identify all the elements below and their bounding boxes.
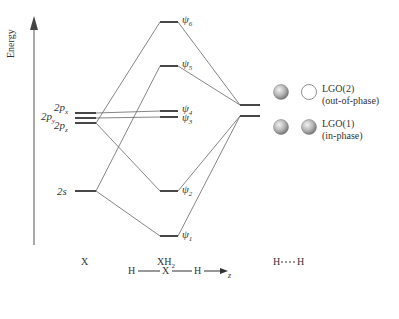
correlation-lines: [96, 22, 240, 236]
z-arrow-icon: [220, 268, 228, 274]
label-psi2: ψ2: [182, 184, 192, 198]
label-psi6: ψ6: [182, 14, 192, 28]
sphere-empty-icon: [302, 85, 317, 100]
label-2px: 2px: [54, 102, 68, 116]
label-2s: 2s: [57, 186, 67, 197]
energy-axis: [30, 16, 38, 245]
x-levels: [75, 113, 96, 191]
geom-x: X: [162, 266, 169, 276]
sphere-filled-icon: [274, 120, 289, 135]
sphere-filled-icon: [302, 120, 317, 135]
xh2-levels: [160, 22, 178, 236]
label-psi1: ψ1: [182, 229, 192, 243]
column-hh-h2: H: [297, 257, 304, 267]
geom-h2: H: [194, 266, 201, 276]
lgo1-desc: (in-phase): [322, 131, 363, 141]
lgo-spheres: [274, 85, 317, 135]
energy-axis-label: Energy: [6, 29, 16, 58]
label-psi5: ψ5: [182, 58, 192, 72]
lgo2-title: LGO(2): [322, 84, 354, 94]
lgo1-title: LGO(1): [322, 119, 354, 129]
axis-arrow-icon: [30, 16, 38, 30]
column-x: X: [81, 257, 88, 267]
label-2py: 2py: [41, 111, 55, 125]
lgo2-desc: (out-of-phase): [322, 96, 379, 106]
geom-z-axis: z: [228, 272, 231, 280]
geom-h1: H: [128, 266, 135, 276]
label-2pz: 2pz: [54, 120, 68, 134]
column-hh-h1: H: [273, 257, 280, 267]
geometry-bonds: [138, 268, 228, 274]
hh-levels: [240, 105, 260, 116]
sphere-filled-icon: [274, 85, 289, 100]
label-psi3: ψ3: [182, 112, 192, 126]
